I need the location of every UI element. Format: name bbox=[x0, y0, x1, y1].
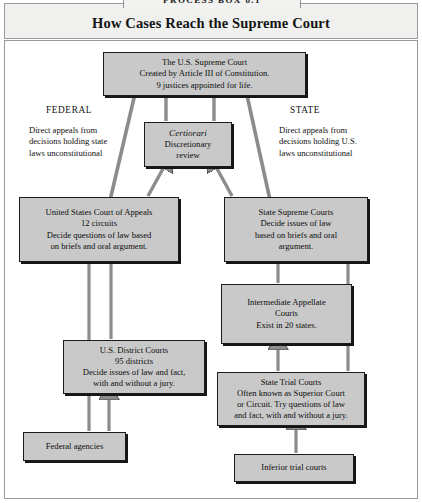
arrow-state-supreme-to-certiorari bbox=[215, 165, 232, 196]
running-head: PROCESS BOX 8.1 bbox=[123, 0, 301, 8]
node-supreme-court-text: The U.S. Supreme Court Created by Articl… bbox=[104, 57, 305, 90]
node-state-supreme-courts[interactable]: State Supreme Courts Decide issues of la… bbox=[224, 197, 368, 262]
note-state-direct-appeals: Direct appeals from decisions holding U.… bbox=[279, 125, 411, 159]
node-supreme-court[interactable]: The U.S. Supreme Court Created by Articl… bbox=[103, 52, 306, 96]
figure-header-band: How Cases Reach the Supreme Court bbox=[4, 3, 418, 39]
node-state-trial-courts[interactable]: State Trial Courts Often known as Superi… bbox=[217, 372, 365, 426]
page-title: How Cases Reach the Supreme Court bbox=[5, 4, 417, 40]
label-state: STATE bbox=[290, 105, 320, 115]
node-state-trial-courts-text: State Trial Courts Often known as Superi… bbox=[218, 377, 364, 421]
process-box-figure: PROCESS BOX 8.1 How Cases Reach the Supr… bbox=[0, 0, 422, 503]
node-district-courts[interactable]: U.S. District Courts 95 districts Decide… bbox=[63, 340, 205, 394]
arrow-appeals-to-certiorari bbox=[148, 165, 165, 196]
node-state-supreme-courts-text: State Supreme Courts Decide issues of la… bbox=[225, 207, 367, 251]
node-court-of-appeals-text: United States Court of Appeals 12 circui… bbox=[20, 207, 178, 251]
label-federal: FEDERAL bbox=[46, 105, 92, 115]
node-inferior-trial-courts-text: Inferior trial courts bbox=[235, 462, 353, 473]
node-inferior-trial-courts[interactable]: Inferior trial courts bbox=[234, 454, 354, 482]
note-federal-direct-appeals: Direct appeals from decisions holding st… bbox=[29, 125, 159, 159]
node-federal-agencies-text: Federal agencies bbox=[24, 441, 125, 452]
node-district-courts-text: U.S. District Courts 95 districts Decide… bbox=[64, 345, 204, 389]
node-intermediate-appellate-courts-text: Intermediate Appellate Courts Exist in 2… bbox=[222, 297, 351, 330]
diagram-frame: The U.S. Supreme Court Created by Articl… bbox=[4, 40, 418, 499]
node-federal-agencies[interactable]: Federal agencies bbox=[23, 432, 126, 461]
node-certiorari-title: Certiorari bbox=[169, 128, 207, 139]
node-intermediate-appellate-courts[interactable]: Intermediate Appellate Courts Exist in 2… bbox=[221, 284, 352, 344]
node-court-of-appeals[interactable]: United States Court of Appeals 12 circui… bbox=[19, 197, 179, 262]
